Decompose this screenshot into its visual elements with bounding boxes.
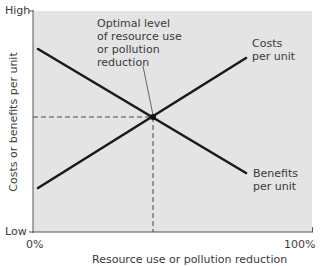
x-tick-label-min: 0% (26, 238, 43, 251)
optimal-level-annotation: Optimal level of resource use or polluti… (97, 17, 182, 69)
x-axis-title: Resource use or pollution reduction (92, 253, 287, 266)
optimal-point-marker (150, 114, 156, 120)
x-tick-label-max: 100% (284, 238, 315, 251)
y-axis-title: Costs or benefits per unit (7, 52, 20, 191)
y-tick-label-high: High (5, 4, 30, 17)
y-tick-label-low: Low (5, 225, 27, 238)
benefits-per-unit-label: Benefits per unit (253, 167, 298, 193)
costs-per-unit-label: Costs per unit (252, 37, 295, 63)
